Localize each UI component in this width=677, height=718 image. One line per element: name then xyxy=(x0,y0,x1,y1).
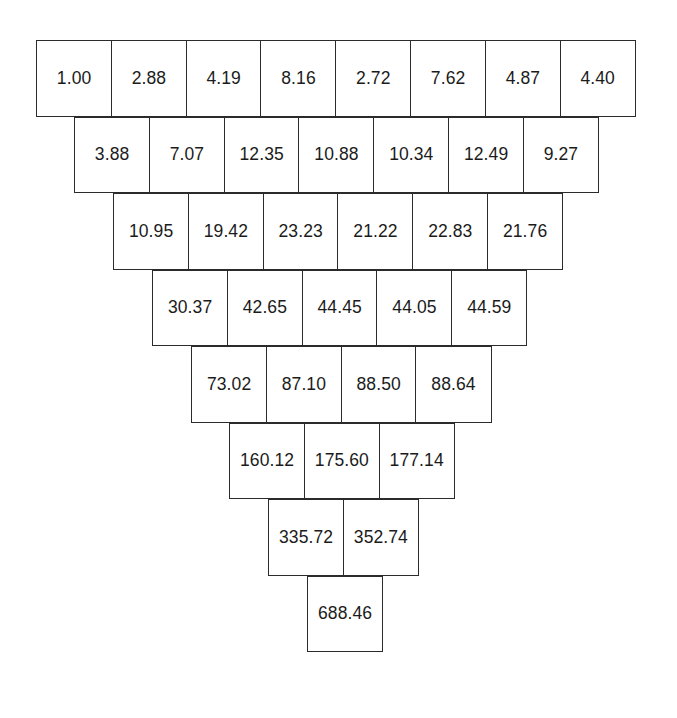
triangle-cell: 10.95 xyxy=(113,193,189,270)
triangle-cell: 21.76 xyxy=(487,193,563,270)
triangle-row: 335.72352.74 xyxy=(268,499,419,576)
triangle-cell: 9.27 xyxy=(523,117,599,194)
triangle-cell: 1.00 xyxy=(36,40,112,117)
triangle-cell: 160.12 xyxy=(229,423,305,500)
triangle-cell: 8.16 xyxy=(260,40,336,117)
triangle-cell: 12.49 xyxy=(448,117,524,194)
triangle-cell: 19.42 xyxy=(188,193,264,270)
triangle-cell: 335.72 xyxy=(268,499,344,576)
triangle-cell: 4.40 xyxy=(560,40,636,117)
triangle-row: 3.887.0712.3510.8810.3412.499.27 xyxy=(74,117,599,194)
triangle-cell: 2.88 xyxy=(111,40,187,117)
triangle-row: 10.9519.4223.2321.2222.8321.76 xyxy=(113,193,563,270)
triangle-cell: 23.23 xyxy=(263,193,339,270)
triangle-row: 688.46 xyxy=(307,576,383,653)
triangle-cell: 175.60 xyxy=(304,423,380,500)
triangle-cell: 2.72 xyxy=(335,40,411,117)
triangle-row: 160.12175.60177.14 xyxy=(229,423,455,500)
triangle-cell: 87.10 xyxy=(266,346,342,423)
triangle-cell: 21.22 xyxy=(337,193,413,270)
triangle-cell: 352.74 xyxy=(343,499,419,576)
triangle-row: 73.0287.1088.5088.64 xyxy=(191,346,492,423)
triangle-cell: 4.87 xyxy=(485,40,561,117)
triangle-cell: 22.83 xyxy=(412,193,488,270)
triangle-row: 1.002.884.198.162.727.624.874.40 xyxy=(36,40,636,117)
triangle-cell: 44.05 xyxy=(376,270,452,347)
triangle-cell: 44.45 xyxy=(302,270,378,347)
triangle-cell: 88.50 xyxy=(341,346,417,423)
triangle-cell: 3.88 xyxy=(74,117,150,194)
triangle-cell: 12.35 xyxy=(224,117,300,194)
triangle-cell: 7.07 xyxy=(149,117,225,194)
triangle-cell: 44.59 xyxy=(451,270,527,347)
triangle-row: 30.3742.6544.4544.0544.59 xyxy=(152,270,527,347)
triangle-cell: 88.64 xyxy=(415,346,491,423)
triangle-cell: 42.65 xyxy=(227,270,303,347)
inverted-triangle-diagram: 1.002.884.198.162.727.624.874.403.887.07… xyxy=(0,0,677,718)
triangle-cell: 177.14 xyxy=(379,423,455,500)
triangle-cell: 4.19 xyxy=(186,40,262,117)
triangle-cell: 73.02 xyxy=(191,346,267,423)
triangle-cell: 7.62 xyxy=(410,40,486,117)
triangle-cell: 688.46 xyxy=(307,576,383,653)
triangle-cell: 30.37 xyxy=(152,270,228,347)
triangle-cell: 10.88 xyxy=(298,117,374,194)
triangle-cell: 10.34 xyxy=(373,117,449,194)
